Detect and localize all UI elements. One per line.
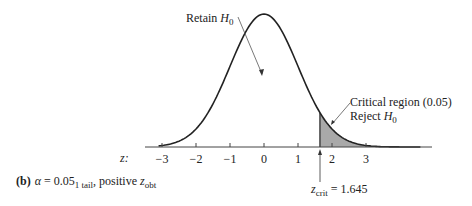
zcrit-arrow-head bbox=[318, 149, 322, 155]
tick-label: 1 bbox=[295, 152, 301, 166]
reject-h0-label: Reject H0 bbox=[350, 109, 397, 125]
tick-label: −2 bbox=[190, 152, 203, 166]
z-axis-label: z: bbox=[119, 151, 129, 165]
tick-label: −3 bbox=[156, 152, 169, 166]
normal-curve-diagram: −3−2−10123 z: Retain H0 Critical region … bbox=[0, 0, 472, 206]
retain-h0-label: Retain H0 bbox=[186, 11, 234, 27]
critical-region-label: Critical region (0.05) bbox=[350, 95, 452, 109]
tick-label: 3 bbox=[363, 152, 369, 166]
critical-arrow-line bbox=[332, 103, 350, 124]
normal-curve bbox=[159, 14, 421, 147]
tick-label: 2 bbox=[329, 152, 335, 166]
retain-arrow-head bbox=[259, 69, 264, 76]
tick-label: −1 bbox=[224, 152, 237, 166]
figure-caption: (b)α = 0.051 tail, positive zobt bbox=[16, 174, 157, 190]
zcrit-label: zcrit = 1.645 bbox=[310, 182, 367, 198]
tick-label: 0 bbox=[261, 152, 267, 166]
